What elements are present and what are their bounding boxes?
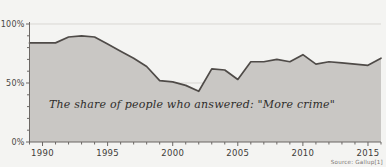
y-tick-group [26, 24, 30, 142]
x-axis-labels: 199019952000200520102015 [31, 148, 379, 158]
series-area-more-crime [30, 36, 382, 142]
x-tick-label: 2015 [357, 148, 380, 158]
chart-annotation: The share of people who answered: "More … [49, 98, 335, 111]
x-tick-label: 2010 [291, 148, 314, 158]
x-tick-label: 2000 [161, 148, 184, 158]
x-tick-group [30, 142, 382, 146]
chart-canvas: 100%50%0% 199019952000200520102015 The s… [0, 0, 386, 167]
crime-perception-area-chart: 100%50%0% 199019952000200520102015 The s… [0, 0, 386, 167]
x-tick-label: 1990 [31, 148, 54, 158]
source-credit: Source: Gallup[1] [331, 159, 383, 166]
x-tick-label: 1995 [96, 148, 119, 158]
y-tick-label: 100% [1, 20, 25, 29]
y-tick-label: 50% [6, 79, 25, 88]
x-tick-label: 2005 [226, 148, 249, 158]
y-tick-label: 0% [11, 138, 24, 147]
y-axis-labels: 100%50%0% [1, 20, 25, 147]
